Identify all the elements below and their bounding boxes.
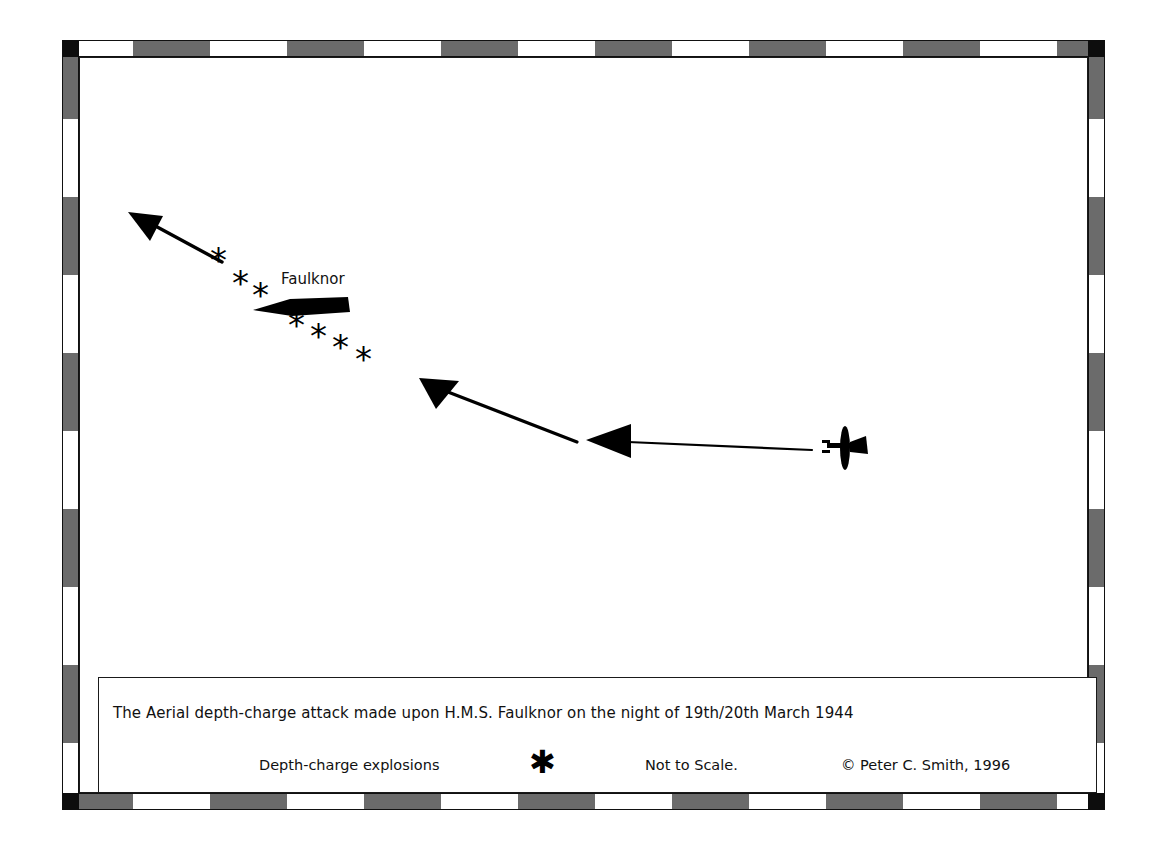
explosion-marker: * bbox=[210, 240, 227, 280]
explosion-marker: * bbox=[355, 339, 372, 379]
explosion-marker: * bbox=[232, 263, 249, 303]
legend-scale-note: Not to Scale. bbox=[645, 757, 738, 773]
diagram-page: * * * * * * * Faulknor The Aerial depth-… bbox=[0, 0, 1167, 854]
explosion-marker: * bbox=[252, 275, 269, 315]
legend-copyright-credit: © Peter C. Smith, 1996 bbox=[841, 757, 1010, 773]
caption-title: The Aerial depth-charge attack made upon… bbox=[113, 704, 854, 722]
ship-track-arrow bbox=[128, 212, 222, 262]
explosion-marker: * bbox=[310, 316, 327, 356]
frame-corner-top-left bbox=[62, 40, 79, 57]
frame-corner-bottom-left bbox=[62, 793, 79, 810]
aircraft-attack-run-arrow bbox=[586, 424, 812, 458]
aircraft-run-second-leg-arrow bbox=[419, 378, 577, 442]
explosion-marker: * bbox=[332, 327, 349, 367]
caption-panel: The Aerial depth-charge attack made upon… bbox=[98, 677, 1097, 793]
legend-explosion-icon: ✱ bbox=[529, 746, 556, 778]
aircraft-silhouette bbox=[822, 426, 868, 470]
ship-label-faulknor: Faulknor bbox=[281, 270, 345, 288]
frame-corner-top-right bbox=[1088, 40, 1105, 57]
explosion-marker: * bbox=[288, 305, 305, 345]
frame-corner-bottom-right bbox=[1088, 793, 1105, 810]
legend-depth-charge-label: Depth-charge explosions bbox=[259, 757, 439, 773]
